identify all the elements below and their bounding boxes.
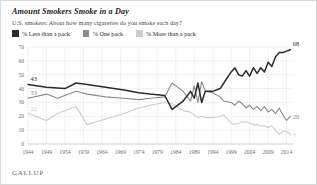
svg-text:60: 60 (18, 58, 24, 64)
svg-text:20: 20 (293, 113, 299, 120)
series-value-labels: 43332268207 (31, 41, 300, 139)
legend-label-one: % One pack (93, 30, 123, 37)
svg-text:1989: 1989 (189, 149, 200, 155)
svg-text:22: 22 (31, 105, 37, 112)
chart-legend: % Less than a pack % One pack % More tha… (12, 30, 209, 37)
svg-text:10: 10 (18, 127, 24, 133)
y-axis-labels: 010203040506070 (18, 44, 24, 147)
svg-text:68: 68 (293, 41, 299, 47)
svg-text:50: 50 (18, 72, 24, 78)
svg-text:1959: 1959 (78, 149, 89, 155)
svg-text:1964: 1964 (96, 149, 107, 155)
svg-text:43: 43 (31, 75, 37, 82)
svg-text:30: 30 (18, 99, 24, 105)
page-title: Amount Smokers Smoke in a Day (12, 7, 129, 16)
svg-text:20: 20 (18, 113, 24, 119)
legend-label-less: % Less than a pack (22, 30, 70, 37)
svg-text:1984: 1984 (170, 149, 181, 155)
legend-swatch-one (83, 30, 90, 37)
legend-label-more: % More than a pack (146, 30, 196, 37)
legend-swatch-less (12, 30, 19, 37)
line-chart: 010203040506070 194419491954195919641969… (1, 41, 317, 165)
svg-text:1954: 1954 (59, 149, 70, 155)
svg-text:2014: 2014 (281, 149, 292, 155)
svg-text:7: 7 (293, 132, 297, 139)
svg-text:2004: 2004 (244, 149, 255, 155)
svg-text:1949: 1949 (41, 149, 52, 155)
svg-text:1994: 1994 (207, 149, 218, 155)
svg-text:40: 40 (18, 86, 24, 92)
svg-text:2009: 2009 (263, 149, 274, 155)
svg-text:70: 70 (18, 44, 24, 50)
series-lines (28, 50, 290, 135)
legend-swatch-more (136, 30, 143, 37)
svg-text:1979: 1979 (152, 149, 163, 155)
chart-card: Amount Smokers Smoke in a Day U.S. smoke… (0, 0, 317, 185)
x-axis-labels: 1944194919541959196419691974197919841989… (22, 149, 292, 155)
gallup-logo: GALLUP (12, 169, 44, 177)
legend-item-more: % More than a pack (136, 30, 196, 37)
legend-item-less: % Less than a pack (12, 30, 70, 37)
svg-text:1969: 1969 (115, 149, 126, 155)
chart-plot-area: 010203040506070 194419491954195919641969… (1, 41, 317, 165)
svg-text:1974: 1974 (133, 149, 144, 155)
legend-item-one: % One pack (83, 30, 123, 37)
svg-text:33: 33 (31, 89, 37, 96)
svg-text:1999: 1999 (226, 149, 237, 155)
chart-subtitle: U.S. smokers: About how many cigarettes … (12, 19, 182, 26)
svg-text:1944: 1944 (22, 149, 33, 155)
svg-text:0: 0 (21, 141, 24, 147)
